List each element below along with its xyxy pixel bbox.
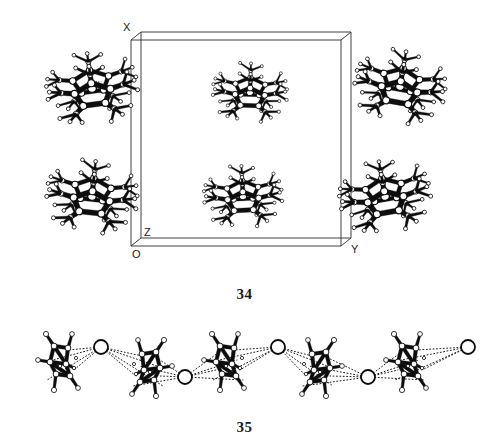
hydrogen-sphere	[259, 120, 262, 123]
cage-atom	[53, 371, 59, 377]
small-atom	[132, 362, 135, 365]
cage-atom	[413, 345, 419, 351]
small-atom	[406, 364, 409, 367]
hydrogen-sphere	[66, 107, 70, 111]
small-atom	[74, 356, 77, 359]
hydrogen-sphere	[360, 90, 364, 94]
hydrogen-sphere	[47, 187, 51, 191]
hydrogen-sphere	[360, 215, 364, 219]
ring-carbon	[232, 91, 238, 97]
ring-carbon	[397, 77, 405, 85]
cage-atom	[153, 349, 159, 355]
hydrogen-sphere	[226, 104, 229, 107]
cage-atom	[157, 365, 163, 371]
ring-carbon	[89, 187, 97, 195]
hydrogen-sphere	[273, 201, 276, 204]
hydrogen-sphere	[202, 190, 205, 193]
hydrogen-sphere	[204, 183, 207, 186]
figure-34-canvas: XYZO	[0, 0, 489, 275]
hydrogen-sphere	[47, 90, 52, 95]
cage-atom	[151, 377, 157, 383]
hydrogen-sphere	[54, 182, 58, 186]
hydrogen-sphere	[272, 183, 276, 187]
hydrogen-sphere	[251, 166, 254, 169]
ring-carbon	[231, 208, 237, 214]
ring-carbon	[404, 100, 412, 108]
hydrogen-sphere	[388, 60, 393, 65]
cage-atom	[309, 351, 315, 357]
cation-sphere-cation-5	[461, 340, 475, 354]
hydrogen-sphere	[363, 69, 368, 74]
ring-carbon	[69, 77, 76, 84]
hydrogen-sphere	[345, 192, 350, 197]
hydrogen-sphere	[401, 62, 406, 67]
ring-carbon	[79, 102, 87, 110]
ring-carbon	[106, 85, 114, 93]
cage-atom	[137, 379, 143, 385]
ring-carbon	[70, 194, 78, 202]
hydrogen-sphere	[211, 218, 215, 222]
hydrogen-sphere	[260, 65, 263, 68]
hydrogen-sphere	[218, 110, 221, 113]
hydrogen-sphere	[440, 89, 445, 94]
hydrogen-sphere	[255, 224, 259, 228]
hydrogen-sphere	[280, 199, 284, 203]
ring-carbon	[75, 207, 83, 215]
substituent-sphere	[306, 338, 311, 343]
hydrogen-sphere	[44, 84, 48, 88]
hydrogen-sphere	[229, 176, 233, 180]
ring-carbon	[101, 99, 109, 107]
cage-atom	[63, 361, 69, 367]
hydrogen-sphere	[211, 207, 214, 210]
hydrogen-sphere	[403, 226, 408, 231]
hydrogen-sphere	[56, 104, 60, 108]
cage-atom	[415, 373, 421, 379]
substituent-sphere	[236, 332, 241, 337]
cage-atom	[307, 379, 313, 385]
hydrogen-sphere	[60, 221, 64, 225]
cage-atom	[399, 343, 405, 349]
hydrogen-sphere	[277, 180, 280, 183]
figure-34-background	[0, 0, 489, 275]
substituent-sphere	[418, 332, 423, 337]
hydrogen-sphere	[238, 72, 241, 75]
hydrogen-sphere	[46, 181, 50, 185]
ring-carbon	[233, 81, 238, 86]
substituent-sphere	[399, 387, 404, 392]
substituent-sphere	[238, 366, 241, 369]
hydrogen-sphere	[432, 100, 436, 104]
hydrogen-sphere	[277, 110, 280, 113]
cage-atom	[139, 351, 145, 357]
hydrogen-sphere	[391, 47, 395, 51]
small-atom	[318, 370, 321, 373]
hydrogen-sphere	[99, 52, 103, 56]
hydrogen-sphere	[379, 172, 384, 177]
cage-atom	[311, 367, 317, 373]
ring-carbon	[362, 186, 369, 193]
hydrogen-sphere	[129, 174, 133, 178]
hydrogen-sphere	[352, 225, 357, 230]
ring-carbon	[98, 210, 106, 218]
hydrogen-sphere	[80, 120, 85, 125]
hydrogen-sphere	[219, 72, 222, 75]
hydrogen-sphere	[270, 105, 273, 108]
hydrogen-sphere	[420, 197, 424, 201]
hydrogen-sphere	[125, 207, 129, 211]
axis-label-x: X	[123, 21, 131, 33]
axis-label-o: O	[132, 248, 141, 260]
cage-atom	[321, 377, 327, 383]
hydrogen-sphere	[249, 72, 252, 75]
hydrogen-sphere	[209, 178, 212, 181]
hydrogen-sphere	[404, 50, 408, 54]
hydrogen-sphere	[415, 164, 419, 168]
ring-carbon	[413, 88, 421, 96]
hydrogen-sphere	[429, 112, 434, 117]
substituent-sphere	[304, 372, 307, 375]
hydrogen-sphere	[218, 83, 221, 86]
hydrogen-sphere	[125, 70, 130, 75]
hydrogen-sphere	[366, 174, 371, 179]
figure-35-canvas	[0, 312, 489, 412]
ring-carbon	[262, 92, 268, 98]
hydrogen-sphere	[358, 62, 362, 66]
hydrogen-sphere	[235, 117, 238, 120]
